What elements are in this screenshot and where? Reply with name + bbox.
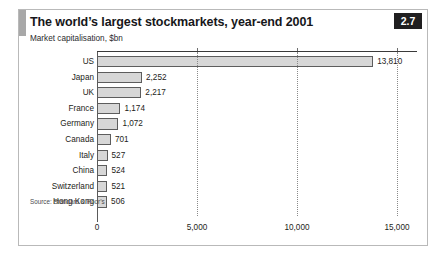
bar-row: Canada701 <box>19 132 429 148</box>
bar-value-label: 2,217 <box>145 85 166 101</box>
bar-japan <box>97 72 142 83</box>
top-tick-mark <box>197 48 198 51</box>
bar-value-label: 524 <box>111 163 125 179</box>
bar-category-label: UK <box>19 85 94 101</box>
gridline <box>297 52 299 216</box>
chart-figure: The world’s largest stockmarkets, year-e… <box>18 9 428 246</box>
bar-value-label: 527 <box>112 148 126 164</box>
top-tick-mark <box>397 48 398 51</box>
bar-category-label: Italy <box>19 148 94 164</box>
chart-subtitle: Market capitalisation, $bn <box>30 34 123 43</box>
gridline <box>197 52 199 216</box>
x-tick-label: 5,000 <box>187 223 208 232</box>
bar-row: Switzerland521 <box>19 179 429 195</box>
bar-row: UK2,217 <box>19 85 429 101</box>
bar-category-label: US <box>19 54 94 70</box>
x-tick-label: 10,000 <box>284 223 309 232</box>
bar-france <box>97 103 120 114</box>
x-tick-label: 0 <box>95 223 100 232</box>
bar-row: Japan2,252 <box>19 70 429 86</box>
bar-category-label: Switzerland <box>19 179 94 195</box>
top-axis-rule <box>97 51 417 52</box>
top-tick-mark <box>297 48 298 51</box>
status-badge: 2.7 <box>394 13 422 29</box>
bar-germany <box>97 118 118 129</box>
bar-canada <box>97 134 111 145</box>
bar-value-label: 1,072 <box>122 116 143 132</box>
bar-category-label: Germany <box>19 116 94 132</box>
bar-china <box>97 165 107 176</box>
page-title: The world’s largest stockmarkets, year-e… <box>30 15 313 29</box>
bar-category-label: Canada <box>19 132 94 148</box>
bar-row: China524 <box>19 163 429 179</box>
source-note: Source: Standard & Poor’s <box>30 198 105 205</box>
plot-area: US13,810Japan2,252UK2,217France1,174Germ… <box>19 51 429 247</box>
gridline <box>397 52 399 216</box>
bar-value-label: 506 <box>111 194 125 210</box>
x-tick-label: 15,000 <box>384 223 409 232</box>
bar-category-label: France <box>19 101 94 117</box>
bar-value-label: 701 <box>115 132 129 148</box>
bar-row: Germany1,072 <box>19 116 429 132</box>
bar-value-label: 521 <box>111 179 125 195</box>
bar-row: US13,810 <box>19 54 429 70</box>
bar-category-label: Japan <box>19 70 94 86</box>
accent-mark <box>19 10 26 36</box>
bar-value-label: 1,174 <box>124 101 145 117</box>
bar-value-label: 2,252 <box>146 70 167 86</box>
bar-category-label: China <box>19 163 94 179</box>
bar-italy <box>97 150 108 161</box>
bar-uk <box>97 87 141 98</box>
bar-us <box>97 56 373 67</box>
bar-switzerland <box>97 181 107 192</box>
bar-row: France1,174 <box>19 101 429 117</box>
bar-row: Italy527 <box>19 148 429 164</box>
